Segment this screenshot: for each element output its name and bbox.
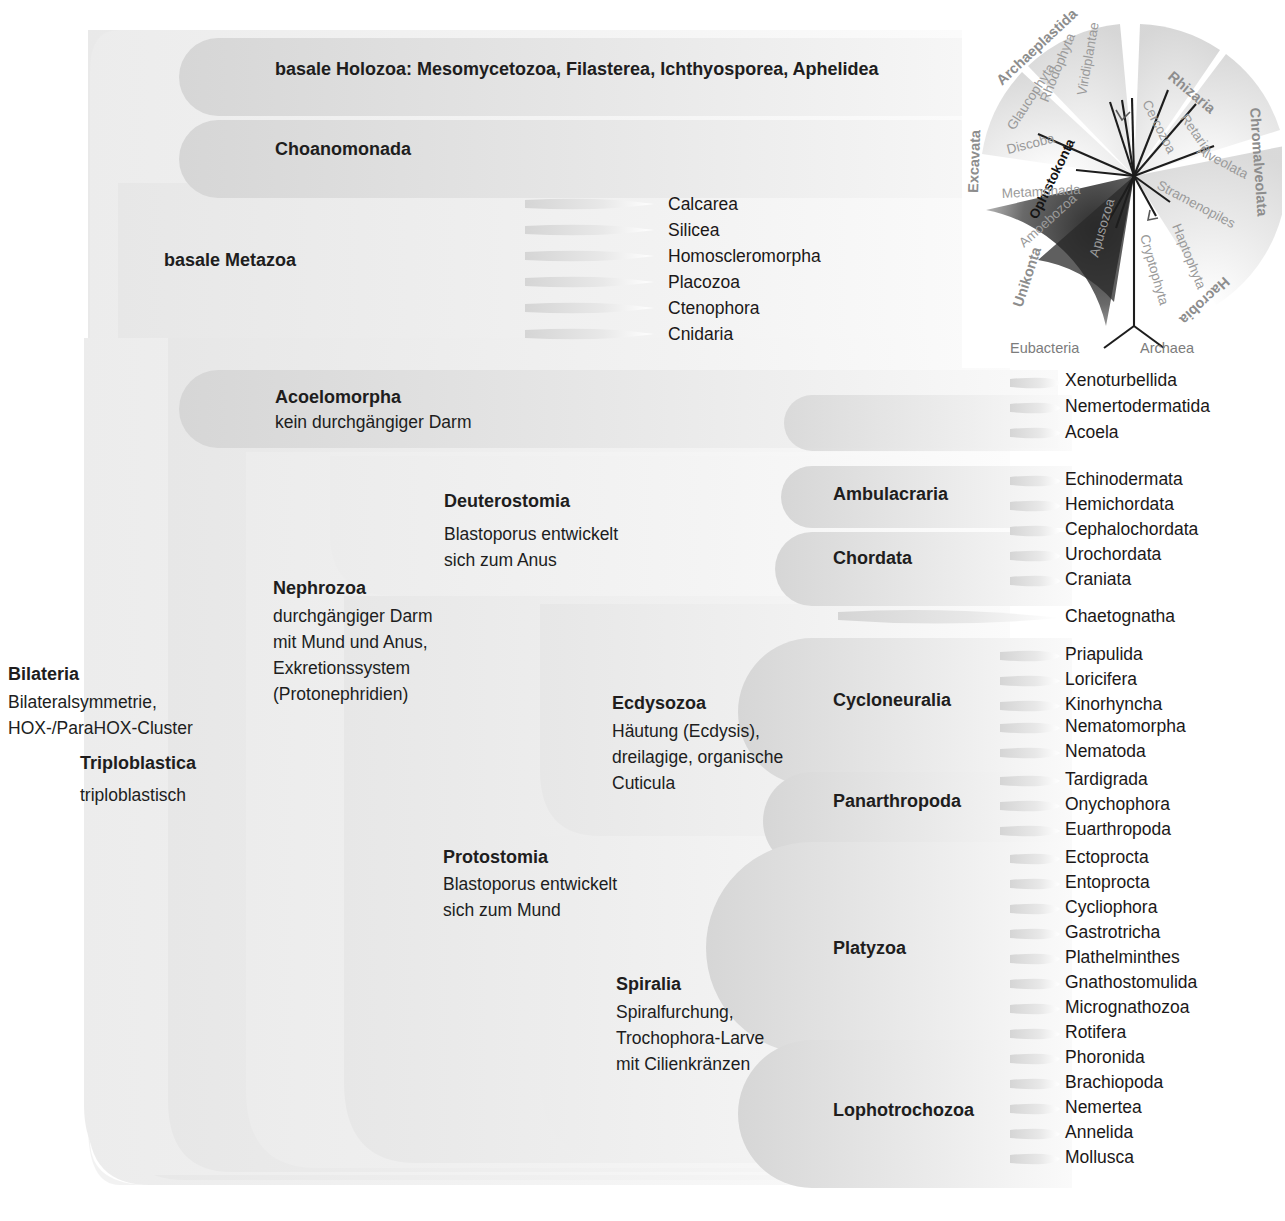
clade-note-spiralia-3: mit Cilienkränzen: [616, 1052, 750, 1077]
leaf-label: Plathelminthes: [1065, 949, 1180, 966]
leaf-group-ecdysozoa-basal: [838, 610, 1060, 624]
clade-label-chordata: Chordata: [833, 546, 912, 571]
clade-note-nephrozoa-1: durchgängiger Darm: [273, 604, 433, 629]
clade-label-triploblastica: Triploblastica: [80, 751, 196, 776]
clade-label-ecdysozoa: Ecdysozoa: [612, 691, 706, 716]
leaf-label: Echinodermata: [1065, 471, 1183, 488]
leaf-label: Micrognathozoa: [1065, 999, 1190, 1016]
eukaryote-tree-inset: Archaeplastida Rhizaria Chromalveolata H…: [962, 8, 1282, 368]
clade-note-deuterostomia-1: Blastoporus entwickelt: [444, 522, 618, 547]
leaf-label: Calcarea: [668, 196, 738, 213]
inset-supergroup-label: Excavata: [965, 129, 983, 193]
leaf-label: Tardigrada: [1065, 771, 1148, 788]
clade-label-bilateria: Bilateria: [8, 662, 79, 687]
leaf-label: Chaetognatha: [1065, 608, 1175, 625]
clade-note-protostomia-1: Blastoporus entwickelt: [443, 872, 617, 897]
leaf-label: Ctenophora: [668, 300, 759, 317]
leaf-label: Xenoturbellida: [1065, 372, 1177, 389]
leaf-label: Craniata: [1065, 571, 1131, 588]
leaf-label: Phoronida: [1065, 1049, 1145, 1066]
leaf-group-platyzoa: [1010, 854, 1060, 1040]
leaf-label: Urochordata: [1065, 546, 1161, 563]
clade-note-nephrozoa-2: mit Mund und Anus,: [273, 630, 428, 655]
clade-label-lophotrochozoa: Lophotrochozoa: [833, 1098, 974, 1123]
leaf-group-lophotrochozoa: [1010, 1054, 1060, 1165]
clade-note-spiralia-2: Trochophora-Larve: [616, 1026, 764, 1051]
clade-note-triploblastica-1: triploblastisch: [80, 783, 186, 808]
clade-note-bilateria-2: HOX-/ParaHOX-Cluster: [8, 716, 193, 741]
leaf-label: Euarthropoda: [1065, 821, 1171, 838]
leaf-label: Cycliophora: [1065, 899, 1157, 916]
clade-note-deuterostomia-2: sich zum Anus: [444, 548, 557, 573]
leaf-label: Brachiopoda: [1065, 1074, 1163, 1091]
leaf-label: Nematoda: [1065, 743, 1146, 760]
leaf-label: Loricifera: [1065, 671, 1137, 688]
clade-label-nephrozoa: Nephrozoa: [273, 576, 366, 601]
leaf-group-metazoa: [525, 199, 654, 340]
clade-label-holozoa: basale Holozoa: Mesomycetozoa, Filastere…: [275, 57, 879, 82]
leaf-label: Cephalochordata: [1065, 521, 1198, 538]
leaf-label: Hemichordata: [1065, 496, 1174, 513]
leaf-label: Rotifera: [1065, 1024, 1126, 1041]
clade-note-ecdysozoa-3: Cuticula: [612, 771, 675, 796]
clade-note-acoelomorpha: kein durchgängiger Darm: [275, 410, 472, 435]
leaf-label: Placozoa: [668, 274, 740, 291]
cladogram-figure: basale Holozoa: Mesomycetozoa, Filastere…: [0, 0, 1285, 1221]
leaf-label: Cnidaria: [668, 326, 733, 343]
clade-label-basale-metazoa: basale Metazoa: [164, 248, 296, 273]
inset-root-label: Eubacteria: [1010, 340, 1080, 356]
leaf-label: Onychophora: [1065, 796, 1170, 813]
clade-note-ecdysozoa-2: dreilagige, organische: [612, 745, 783, 770]
leaf-label: Nemertodermatida: [1065, 398, 1210, 415]
clade-note-bilateria-1: Bilateralsymmetrie,: [8, 690, 157, 715]
leaf-label: Entoprocta: [1065, 874, 1150, 891]
clade-note-nephrozoa-3: Exkretionssystem: [273, 656, 410, 681]
leaf-label: Acoela: [1065, 424, 1119, 441]
leaf-label: Gnathostomulida: [1065, 974, 1197, 991]
leaf-group-acoelomorpha: [1010, 378, 1060, 439]
leaf-label: Annelida: [1065, 1124, 1133, 1141]
leaf-label: Homoscleromorpha: [668, 248, 821, 265]
clade-note-ecdysozoa-1: Häutung (Ecdysis),: [612, 719, 760, 744]
clade-label-platyzoa: Platyzoa: [833, 936, 906, 961]
leaf-group-deuterostomia: [1010, 476, 1060, 587]
clade-note-spiralia-1: Spiralfurchung,: [616, 1000, 734, 1025]
leaf-label: Nemertea: [1065, 1099, 1142, 1116]
leaf-label: Kinorhyncha: [1065, 696, 1162, 713]
clade-label-panarthropoda: Panarthropoda: [833, 789, 961, 814]
clade-note-nephrozoa-4: (Protonephridien): [273, 682, 408, 707]
leaf-label: Mollusca: [1065, 1149, 1134, 1166]
leaf-label: Gastrotricha: [1065, 924, 1160, 941]
clade-label-choanomonada: Choanomonada: [275, 137, 411, 162]
inset-root-label: Archaea: [1140, 340, 1195, 356]
leaf-label: Nematomorpha: [1065, 718, 1186, 735]
clade-label-deuterostomia: Deuterostomia: [444, 489, 570, 514]
leaf-group-panarthropoda: [1000, 776, 1060, 837]
clade-label-acoelomorpha: Acoelomorpha: [275, 385, 401, 410]
leaf-label: Ectoprocta: [1065, 849, 1149, 866]
clade-note-protostomia-2: sich zum Mund: [443, 898, 561, 923]
clade-label-ambulacraria: Ambulacraria: [833, 482, 948, 507]
leaf-label: Silicea: [668, 222, 720, 239]
leaf-group-cycloneuralia: [1000, 651, 1060, 759]
clade-label-spiralia: Spiralia: [616, 972, 681, 997]
leaf-label: Priapulida: [1065, 646, 1143, 663]
clade-label-protostomia: Protostomia: [443, 845, 548, 870]
clade-label-cycloneuralia: Cycloneuralia: [833, 688, 951, 713]
